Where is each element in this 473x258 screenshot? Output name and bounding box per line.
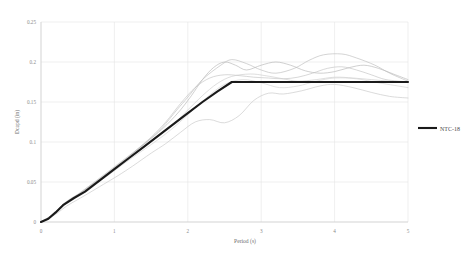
y-axis-ticks: 00.050.10.150.20.25 (27, 19, 36, 225)
x-tick-label: 4 (333, 228, 336, 234)
series-line-record-2 (41, 67, 408, 222)
y-tick-label: 0.1 (30, 139, 37, 145)
x-tick-label: 3 (260, 228, 263, 234)
x-axis-title: Period (s) (234, 238, 256, 245)
series-line-record-4 (41, 84, 408, 222)
y-tick-label: 0.15 (27, 99, 36, 105)
y-tick-label: 0.2 (30, 59, 37, 65)
x-tick-label: 2 (187, 228, 190, 234)
x-tick-label: 5 (407, 228, 410, 234)
chart-canvas: 00.050.10.150.20.25 012345 Period (s) Dc… (0, 0, 473, 258)
series-line-record-5 (41, 74, 408, 222)
legend: NTC-18 (418, 126, 460, 132)
y-tick-label: 0.05 (27, 179, 36, 185)
gridlines (41, 22, 408, 222)
x-tick-label: 0 (40, 228, 43, 234)
x-axis-ticks: 012345 (40, 228, 410, 234)
y-axis-title: Dcapd (in) (14, 110, 21, 134)
response-spectrum-chart: 00.050.10.150.20.25 012345 Period (s) Dc… (0, 0, 473, 258)
y-tick-label: 0.25 (27, 19, 36, 25)
series-line-record-3 (41, 54, 408, 222)
series-line-record-6 (41, 78, 408, 222)
legend-label-ntc18: NTC-18 (440, 126, 460, 132)
plot-frame (41, 22, 408, 222)
series-lines (41, 54, 408, 222)
y-tick-label: 0 (33, 219, 36, 225)
x-tick-label: 1 (113, 228, 116, 234)
series-line-NTC-18 (41, 82, 408, 222)
